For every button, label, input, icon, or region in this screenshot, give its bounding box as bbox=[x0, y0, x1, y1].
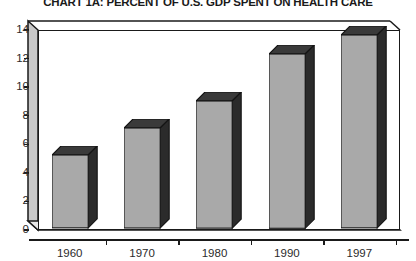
y-tick-label: 14 bbox=[7, 24, 29, 36]
x-tick-mark bbox=[251, 239, 253, 245]
x-axis: 19601970198019901997 bbox=[0, 231, 416, 261]
bar-front-face bbox=[341, 35, 377, 228]
bar-front-face bbox=[269, 54, 305, 228]
bar-1960[interactable] bbox=[52, 148, 97, 230]
plot-top-right-edge bbox=[390, 21, 400, 30]
bar-front-face bbox=[196, 101, 232, 228]
x-tick-mark bbox=[106, 239, 108, 245]
x-tick-mark bbox=[178, 239, 180, 245]
y-tick-label: 8 bbox=[7, 110, 29, 122]
x-tick-mark bbox=[396, 239, 398, 245]
y-tick-label: 4 bbox=[7, 167, 29, 179]
bar-shape bbox=[196, 92, 243, 230]
y-tick-label: 12 bbox=[7, 53, 29, 65]
x-tick-label: 1970 bbox=[112, 248, 172, 260]
bar-1970[interactable] bbox=[124, 121, 169, 230]
x-axis-line bbox=[29, 239, 409, 241]
x-tick-label: 1990 bbox=[257, 248, 317, 260]
y-tick-label: 2 bbox=[7, 195, 29, 207]
bar-front-face bbox=[124, 128, 160, 228]
bar-side-face bbox=[160, 119, 169, 228]
bar-shape bbox=[341, 26, 388, 230]
bar-shape bbox=[52, 146, 99, 230]
x-tick-label: 1980 bbox=[185, 248, 245, 260]
x-tick-label: 1960 bbox=[40, 248, 100, 260]
bar-1990[interactable] bbox=[269, 47, 314, 230]
bar-1980[interactable] bbox=[196, 94, 241, 230]
bar-side-face bbox=[305, 45, 314, 228]
bar-1997[interactable] bbox=[341, 28, 386, 230]
bar-side-face bbox=[88, 146, 97, 228]
y-tick-label: 10 bbox=[7, 81, 29, 93]
bar-chart: CHART 1A: PERCENT OF U.S. GDP SPENT ON H… bbox=[0, 0, 416, 261]
y-tick-label: 6 bbox=[7, 138, 29, 150]
bar-side-face bbox=[377, 26, 386, 228]
bar-front-face bbox=[52, 155, 88, 228]
y-axis: 02468101214 bbox=[0, 0, 29, 261]
bars-layer bbox=[38, 30, 400, 230]
bar-shape bbox=[124, 119, 171, 230]
bar-side-face bbox=[233, 92, 242, 228]
x-tick-mark bbox=[323, 239, 325, 245]
plot-left-wall bbox=[28, 21, 38, 230]
bar-shape bbox=[269, 45, 316, 230]
x-tick-label: 1997 bbox=[329, 248, 389, 260]
